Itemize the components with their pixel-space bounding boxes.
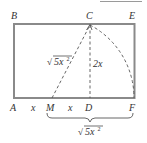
label-f: F bbox=[128, 102, 136, 113]
exponent-mf: 2 bbox=[98, 126, 101, 132]
label-m: M bbox=[45, 102, 55, 113]
golden-rectangle-diagram: B C E A M D F x x 2x √ 5x 2 √ 5x 2 bbox=[0, 0, 147, 143]
label-mc-sqrt: √ 5x 2 bbox=[47, 56, 72, 67]
label-d: D bbox=[84, 102, 93, 113]
radical-sign: √ bbox=[78, 127, 83, 137]
label-mf-sqrt: √ 5x 2 bbox=[78, 126, 103, 137]
label-e: E bbox=[128, 10, 135, 21]
radicand-mf: 5x bbox=[85, 126, 95, 137]
rectangle-abef bbox=[14, 24, 135, 98]
label-a: A bbox=[9, 102, 17, 113]
label-am-x: x bbox=[30, 102, 36, 113]
exponent-mc: 2 bbox=[67, 56, 70, 62]
radicand-mc: 5x bbox=[54, 56, 64, 67]
radical-sign: √ bbox=[47, 57, 52, 67]
label-cd-2x: 2x bbox=[93, 58, 103, 69]
label-b: B bbox=[11, 10, 17, 21]
label-md-x: x bbox=[67, 102, 73, 113]
label-c: C bbox=[86, 10, 93, 21]
brace-mf bbox=[47, 113, 133, 122]
